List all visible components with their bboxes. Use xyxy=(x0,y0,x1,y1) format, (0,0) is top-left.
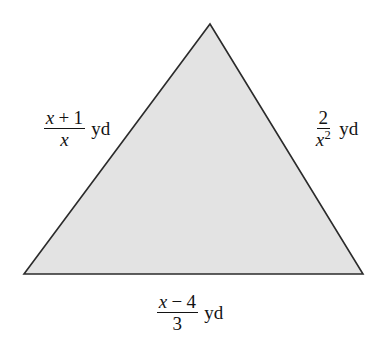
triangle-figure: x+1 x yd 2 x2 yd x−4 3 yd xyxy=(0,0,385,342)
left-side-length-label: x+1 x yd xyxy=(18,104,136,152)
right-denominator-variable: x xyxy=(316,129,325,150)
right-side-length-label: 2 x2 yd xyxy=(288,104,384,152)
right-unit-label: yd xyxy=(339,119,358,138)
bottom-fraction-denominator: 3 xyxy=(171,313,185,333)
right-fraction-denominator: x2 xyxy=(314,129,333,149)
left-fraction-numerator: x+1 xyxy=(44,108,86,129)
bottom-fraction-numerator: x−4 xyxy=(157,292,199,313)
bottom-numerator-variable: x xyxy=(159,291,168,312)
left-fraction: x+1 x xyxy=(44,108,86,149)
left-unit-label: yd xyxy=(91,119,110,138)
left-numerator-variable: x xyxy=(46,107,55,128)
bottom-numerator-constant: 4 xyxy=(186,291,196,312)
bottom-unit-label: yd xyxy=(204,303,223,322)
bottom-side-length-label: x−4 3 yd xyxy=(128,288,252,336)
left-numerator-operator: + xyxy=(58,107,69,128)
right-fraction-numerator: 2 xyxy=(317,108,331,129)
bottom-numerator-operator: − xyxy=(171,291,182,312)
right-denominator-exponent: 2 xyxy=(325,127,332,141)
bottom-fraction: x−4 3 xyxy=(157,292,199,333)
left-fraction-denominator: x xyxy=(58,129,71,149)
right-fraction: 2 x2 xyxy=(314,108,333,149)
left-numerator-constant: 1 xyxy=(73,107,83,128)
